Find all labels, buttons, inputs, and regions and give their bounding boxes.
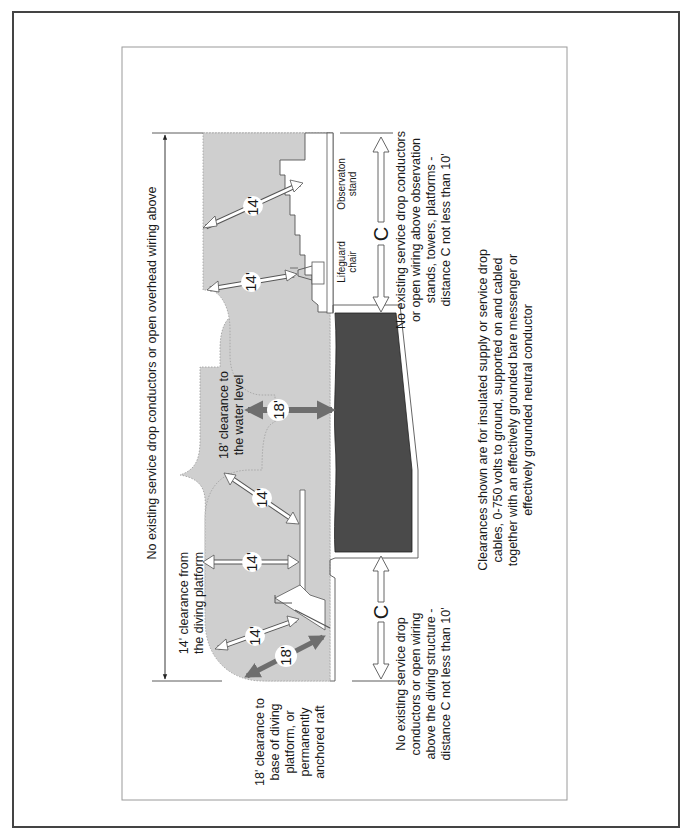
svg-text:above the diving structure -: above the diving structure - — [424, 609, 438, 760]
svg-text:conductors or open wiring: conductors or open wiring — [409, 612, 423, 755]
svg-text:distance C not less than 10': distance C not less than 10' — [439, 153, 453, 306]
observation-stand-label: Observaton stand — [336, 158, 358, 210]
svg-text:permanently: permanently — [298, 707, 312, 777]
dim-label-water-level: 18' — [270, 400, 287, 420]
svg-text:Lifeguard: Lifeguard — [336, 241, 347, 283]
distance-c-arrow-bottom: C — [370, 556, 392, 679]
deck-edge — [327, 133, 333, 313]
raft-clearance-label: 18' clearance to base of diving platform… — [253, 698, 327, 786]
water-level-clearance-label: 18' clearance to the water level — [217, 371, 246, 459]
distance-c-arrow-top: C — [370, 137, 392, 312]
dim-label-raft: 18' — [277, 646, 294, 666]
dim-label-diving-lower: 14' — [246, 626, 263, 646]
svg-text:the diving platform: the diving platform — [192, 552, 206, 654]
diving-platform-clearance-label: 14' clearance from the diving platform — [177, 552, 206, 654]
overhead-wiring-label: No existing service drop conductors or o… — [145, 186, 159, 559]
lifeguard-chair-label: Lifeguard chair — [336, 241, 358, 283]
svg-text:base of diving: base of diving — [268, 703, 282, 780]
svg-text:together with an effectively g: together with an effectively grounded ba… — [506, 254, 520, 566]
footnote: Clearances shown are for insulated suppl… — [476, 249, 535, 571]
svg-text:platform, or: platform, or — [283, 710, 297, 773]
dim-label-lifeguard: 14' — [242, 272, 259, 292]
svg-text:effectively grounded neutral c: effectively grounded neutral conductor — [521, 304, 535, 516]
dim-label-diving-mid: 14' — [243, 552, 260, 572]
diving-structure-note: No existing service drop conductors or o… — [394, 607, 453, 760]
svg-text:18' clearance to: 18' clearance to — [253, 698, 267, 786]
svg-text:chair: chair — [347, 250, 358, 272]
observation-note: No existing service drop conductors or o… — [394, 131, 453, 329]
distance-c-label-top: C — [370, 227, 392, 241]
svg-text:anchored raft: anchored raft — [313, 705, 327, 779]
svg-text:Clearances shown are for insul: Clearances shown are for insulated suppl… — [476, 249, 490, 571]
pool-clearance-diagram: C C 14' 14' 18' 14' — [0, 0, 693, 835]
svg-text:stands, towers, platforms -: stands, towers, platforms - — [424, 157, 438, 304]
svg-text:18' clearance to: 18' clearance to — [217, 371, 231, 459]
dim-label-diving-upper: 14' — [253, 488, 270, 508]
diving-tower — [300, 490, 305, 600]
svg-text:or open wiring above observati: or open wiring above observation — [409, 138, 423, 322]
svg-text:the water level: the water level — [232, 375, 246, 456]
pool-water — [335, 313, 412, 552]
distance-c-label-bottom: C — [370, 605, 392, 619]
svg-text:No existing service drop: No existing service drop — [394, 617, 408, 750]
svg-text:No existing service drop condu: No existing service drop conductors — [394, 131, 408, 329]
dim-label-obs-stand: 14' — [244, 196, 261, 216]
svg-text:14' clearance from: 14' clearance from — [177, 552, 191, 654]
svg-text:stand: stand — [347, 172, 358, 196]
svg-text:Observaton: Observaton — [336, 158, 347, 210]
svg-text:cables, 0-750 volts to ground,: cables, 0-750 volts to ground, supported… — [491, 257, 505, 562]
svg-text:distance C not less than 10': distance C not less than 10' — [439, 607, 453, 760]
